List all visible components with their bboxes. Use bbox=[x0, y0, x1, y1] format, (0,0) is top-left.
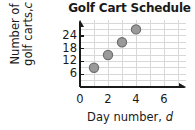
x-tick-label: 6 bbox=[154, 94, 174, 106]
x-tick-label: 0 bbox=[70, 94, 90, 106]
chart-figure: Golf Cart Schedule Number of golf carts,… bbox=[0, 0, 195, 130]
x-axis-tick-labels: 0246 bbox=[0, 0, 195, 130]
x-tick-label: 4 bbox=[126, 94, 146, 106]
x-tick-label: 2 bbox=[98, 94, 118, 106]
